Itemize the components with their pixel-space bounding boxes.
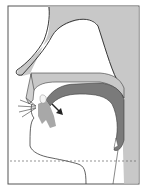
vocal-tract-diagram (0, 0, 144, 191)
upper-teeth (40, 95, 46, 103)
